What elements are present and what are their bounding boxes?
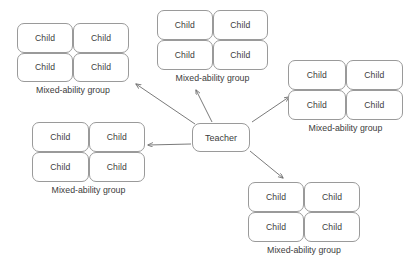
- child-label: Child: [35, 33, 55, 43]
- child-label: Child: [230, 50, 250, 60]
- child-box[interactable]: Child: [73, 23, 129, 53]
- child-label: Child: [266, 192, 286, 202]
- arrow-to-right: [252, 97, 289, 122]
- group-caption: Mixed-ability group: [157, 73, 268, 83]
- child-label: Child: [91, 62, 111, 72]
- child-box[interactable]: Child: [89, 152, 146, 182]
- child-box[interactable]: Child: [17, 23, 73, 53]
- child-grid: Child Child Child Child: [157, 10, 268, 70]
- child-box[interactable]: Child: [32, 152, 89, 182]
- child-label: Child: [50, 132, 70, 142]
- child-box[interactable]: Child: [32, 122, 89, 152]
- child-box[interactable]: Child: [304, 182, 360, 212]
- teacher-node[interactable]: Teacher: [192, 123, 250, 152]
- diagram-canvas: Child Child Child Child Mixed-ability gr…: [0, 0, 413, 267]
- child-box[interactable]: Child: [213, 40, 269, 70]
- child-box[interactable]: Child: [346, 60, 404, 90]
- group-bottom-left: Child Child Child Child Mixed-ability gr…: [32, 122, 145, 195]
- child-label: Child: [50, 162, 70, 172]
- child-box[interactable]: Child: [89, 122, 146, 152]
- child-grid: Child Child Child Child: [17, 23, 129, 82]
- child-box[interactable]: Child: [73, 53, 129, 83]
- child-grid: Child Child Child Child: [288, 60, 403, 120]
- group-right: Child Child Child Child Mixed-ability gr…: [288, 60, 403, 133]
- child-box[interactable]: Child: [17, 53, 73, 83]
- arrow-to-top-left: [136, 84, 195, 124]
- child-box[interactable]: Child: [157, 10, 213, 40]
- child-label: Child: [364, 70, 384, 80]
- child-label: Child: [107, 162, 127, 172]
- child-label: Child: [322, 192, 342, 202]
- child-label: Child: [307, 100, 327, 110]
- child-box[interactable]: Child: [346, 90, 404, 120]
- child-box[interactable]: Child: [304, 212, 360, 242]
- group-caption: Mixed-ability group: [248, 245, 360, 255]
- arrow-to-top-middle: [196, 90, 212, 122]
- child-label: Child: [307, 70, 327, 80]
- group-caption: Mixed-ability group: [32, 185, 145, 195]
- child-label: Child: [266, 222, 286, 232]
- child-label: Child: [107, 132, 127, 142]
- child-box[interactable]: Child: [248, 212, 304, 242]
- group-top-left: Child Child Child Child Mixed-ability gr…: [17, 23, 129, 95]
- group-top-middle: Child Child Child Child Mixed-ability gr…: [157, 10, 268, 83]
- child-label: Child: [322, 222, 342, 232]
- child-label: Child: [35, 62, 55, 72]
- child-label: Child: [364, 100, 384, 110]
- child-grid: Child Child Child Child: [248, 182, 360, 242]
- child-label: Child: [230, 20, 250, 30]
- child-label: Child: [175, 20, 195, 30]
- child-box[interactable]: Child: [157, 40, 213, 70]
- child-box[interactable]: Child: [288, 60, 346, 90]
- child-label: Child: [91, 33, 111, 43]
- teacher-label: Teacher: [205, 133, 237, 143]
- group-bottom-right: Child Child Child Child Mixed-ability gr…: [248, 182, 360, 255]
- child-box[interactable]: Child: [248, 182, 304, 212]
- child-box[interactable]: Child: [213, 10, 269, 40]
- child-box[interactable]: Child: [288, 90, 346, 120]
- child-label: Child: [175, 50, 195, 60]
- arrow-to-bottom-right: [250, 151, 283, 178]
- group-caption: Mixed-ability group: [17, 85, 129, 95]
- arrow-to-bottom-left: [148, 144, 191, 145]
- group-caption: Mixed-ability group: [288, 123, 403, 133]
- child-grid: Child Child Child Child: [32, 122, 145, 182]
